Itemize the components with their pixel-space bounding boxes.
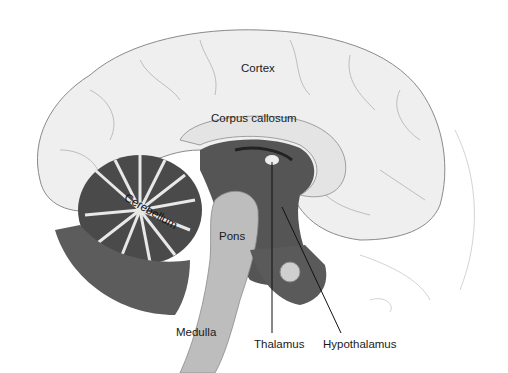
label-hypothalamus: Hypothalamus	[323, 339, 397, 351]
label-pons: Pons	[219, 231, 245, 243]
brain-diagram: Cortex Corpus callosum Cerebellum Pons M…	[0, 0, 508, 373]
label-cortex: Cortex	[241, 63, 275, 75]
label-thalamus: Thalamus	[254, 339, 305, 351]
brain-illustration	[0, 0, 508, 373]
label-corpus-callosum: Corpus callosum	[211, 113, 297, 125]
label-medulla: Medulla	[176, 327, 216, 339]
